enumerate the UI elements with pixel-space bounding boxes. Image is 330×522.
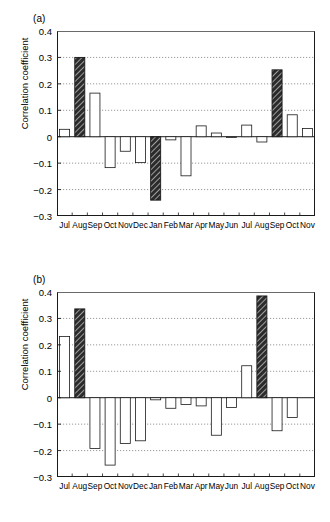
panel-a-chart-svg (57, 31, 315, 216)
panel-b-xtick-label-0: Jul (59, 481, 70, 491)
panel-b-bar-Mar-8 (181, 398, 191, 405)
panel-b-ytick-label: −0.2 (33, 445, 52, 456)
panel-b-xtick-label-10: May (209, 481, 225, 491)
panel-b-xtick-label-11: Jun (225, 481, 238, 491)
panel-a-bar-Jun-11 (227, 137, 237, 138)
panel-a-plot-area: −0.3−0.2−0.100.10.20.30.4JulAugSepOctNov… (57, 31, 315, 216)
panel-b-ytick-label: 0.2 (39, 339, 52, 350)
panel-a-bar-Oct-3 (105, 137, 115, 168)
panel-a-xtick-label-6: Jan (149, 220, 162, 230)
panel-a-ytick-label: 0.4 (39, 26, 52, 37)
panel-b-ytick-label: 0 (47, 392, 52, 403)
panel-b-xtick-label-1: Aug (72, 481, 87, 491)
panel-a-xtick-label-4: Nov (118, 220, 133, 230)
panel-a-xtick-label-0: Jul (59, 220, 70, 230)
panel-a-bar-Feb-7 (166, 137, 176, 140)
panel-a-bar-Jul-12 (242, 125, 252, 137)
panel-b-chart-svg (57, 292, 315, 477)
panel-a-ytick-label: 0.1 (39, 105, 52, 116)
panel-a-bar-Nov-4 (120, 137, 130, 152)
panel-a-ylabel: Correlation coefficient (19, 19, 30, 149)
panel-a-xtick-label-16: Nov (300, 220, 315, 230)
panel-b-bar-Dec-5 (135, 398, 145, 441)
panel-a-xtick-label-1: Aug (72, 220, 87, 230)
panel-a-bar-Jul-0 (60, 129, 70, 136)
panel-b-xtick-label-6: Jan (149, 481, 162, 491)
panel-a-xtick-label-5: Dec (133, 220, 148, 230)
panel-b-tag: (b) (33, 274, 46, 285)
panel-a-bar-Nov-16 (302, 129, 312, 137)
panel-a-bar-Dec-5 (135, 137, 145, 163)
panel-a-bar-May-10 (211, 133, 221, 137)
panel-a-xtick-label-12: Jul (241, 220, 252, 230)
panel-b-xtick-label-4: Nov (118, 481, 133, 491)
panel-a-bar-Mar-8 (181, 137, 191, 176)
panel-a-ytick-label: −0.2 (33, 184, 52, 195)
panel-a-xtick-label-3: Oct (104, 220, 117, 230)
panel-b-xtick-label-16: Nov (300, 481, 315, 491)
panel-b-bar-Aug-13 (257, 296, 267, 398)
panel-b-bar-Feb-7 (166, 398, 176, 409)
panel-b-bar-Sep-14 (272, 398, 282, 431)
panel-a-bar-Sep-2 (90, 93, 100, 137)
panel-b-xtick-label-7: Feb (164, 481, 178, 491)
panel-a-bar-Sep-14 (272, 70, 282, 137)
panel-a-bars (57, 31, 315, 216)
panel-b-plot-area: −0.3−0.2−0.100.10.20.30.4JulAugSepOctNov… (57, 292, 315, 477)
panel-b-ytick-label: 0.1 (39, 366, 52, 377)
panel-b-xtick-label-8: Mar (179, 481, 193, 491)
panel-a-tag: (a) (33, 13, 46, 24)
panel-a-ytick-label: 0.3 (39, 52, 52, 63)
panel-a-bar-Aug-1 (75, 57, 85, 136)
panel-b-ytick-label: 0.3 (39, 313, 52, 324)
panel-a-ytick-label: −0.1 (33, 158, 52, 169)
panel-b-bar-Apr-9 (196, 398, 206, 406)
panel-b-bar-Nov-4 (120, 398, 130, 444)
panel-b-bar-Jan-6 (151, 398, 161, 400)
panel-a-xtick-label-11: Jun (225, 220, 238, 230)
panel-b-bar-Jun-11 (227, 398, 237, 408)
panel-b-xtick-label-13: Aug (254, 481, 269, 491)
panel-a: (a) Correlation coefficient −0.3−0.2−0.1… (0, 0, 330, 261)
panel-a-xtick-label-15: Oct (286, 220, 299, 230)
panel-b-xtick-label-12: Jul (241, 481, 252, 491)
panel-a-xtick-label-9: Apr (195, 220, 208, 230)
panel-b-bar-Aug-1 (75, 309, 85, 398)
panel-a-xtick-label-2: Sep (88, 220, 103, 230)
panel-a-xtick-label-14: Sep (270, 220, 285, 230)
panel-b-bar-May-10 (211, 398, 221, 436)
panel-b-bar-Oct-15 (287, 398, 297, 418)
panel-b-bar-Oct-3 (105, 398, 115, 465)
panel-b-xtick-label-3: Oct (104, 481, 117, 491)
panel-b-xtick-label-15: Oct (286, 481, 299, 491)
panel-b-xtick-label-2: Sep (88, 481, 103, 491)
panel-b-ytick-label: −0.1 (33, 419, 52, 430)
panel-a-bar-Aug-13 (257, 137, 267, 142)
panel-a-bar-Apr-9 (196, 126, 206, 137)
panel-b-bar-Jul-12 (242, 366, 252, 398)
panel-b-xtick-label-5: Dec (133, 481, 148, 491)
panel-a-ytick-label: −0.3 (33, 211, 52, 222)
panel-b-ytick-label: 0.4 (39, 287, 52, 298)
panel-a-xtick-label-10: May (209, 220, 225, 230)
panel-a-xtick-label-8: Mar (179, 220, 193, 230)
panel-b-bar-Jul-0 (60, 336, 70, 397)
panel-b-bar-Sep-2 (90, 398, 100, 449)
panel-b: (b) Correlation coefficient −0.3−0.2−0.1… (0, 261, 330, 522)
panel-a-xtick-label-13: Aug (254, 220, 269, 230)
panel-b-ylabel: Correlation coefficient (19, 280, 30, 410)
panel-b-ytick-label: −0.3 (33, 472, 52, 483)
panel-b-xtick-label-9: Apr (195, 481, 208, 491)
panel-a-ytick-label: 0 (47, 131, 52, 142)
figure-root: (a) Correlation coefficient −0.3−0.2−0.1… (0, 0, 330, 522)
panel-a-xtick-label-7: Feb (164, 220, 178, 230)
panel-a-bar-Oct-15 (287, 115, 297, 137)
panel-a-ytick-label: 0.2 (39, 78, 52, 89)
panel-a-bar-Jan-6 (151, 137, 161, 200)
panel-b-xtick-label-14: Sep (270, 481, 285, 491)
panel-b-bars (57, 292, 315, 477)
